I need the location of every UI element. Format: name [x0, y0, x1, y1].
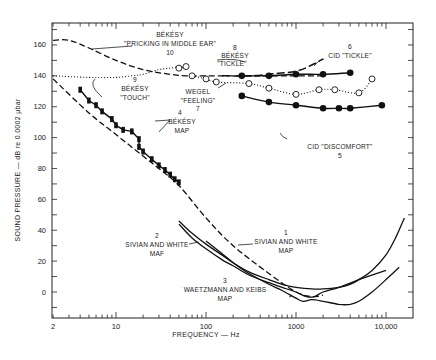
label-8-sub: "TICKLE"	[217, 60, 247, 67]
x-tick-label: 1000	[288, 322, 305, 331]
label-3-num: 3	[223, 277, 227, 284]
label-7-title: WEGEL	[186, 88, 211, 95]
marker-open	[203, 76, 209, 82]
hearing-threshold-chart: 210100100010,000 020406080100120140160 F…	[0, 0, 436, 360]
marker-filled	[239, 73, 246, 80]
x-axis-title: FREQUENCY — Hz	[172, 331, 240, 339]
label-7-sub: "FEELING"	[181, 97, 216, 104]
y-tick-label: 80	[38, 164, 46, 173]
curve-5	[242, 96, 382, 109]
label-5-num: 5	[338, 152, 342, 159]
marker-bar	[137, 144, 141, 150]
marker-bar	[110, 116, 114, 122]
marker-open	[293, 91, 299, 97]
label-7-num: 7	[196, 105, 200, 112]
marker-open	[183, 64, 189, 70]
curve-extrapolation	[53, 79, 323, 297]
marker-bar	[150, 156, 154, 162]
marker-open	[246, 81, 252, 87]
label-10-title: BÉKÉSY	[156, 30, 184, 38]
marker-open	[332, 87, 338, 93]
y-tick-label: 100	[33, 133, 46, 142]
marker-open	[316, 87, 322, 93]
marker-filled	[320, 71, 327, 78]
label-6-num: 6	[348, 43, 352, 50]
x-tick-label: 2	[51, 322, 55, 331]
marker-bar	[130, 128, 134, 134]
marker-bar	[100, 108, 104, 114]
marker-bar	[121, 127, 125, 133]
marker-filled	[347, 105, 354, 112]
label-4-title: BÉKÉSY	[168, 117, 196, 125]
marker-filled	[266, 99, 273, 106]
marker-filled	[336, 105, 343, 112]
marker-open	[356, 90, 362, 96]
marker-bar	[177, 179, 181, 185]
label-9-num: 9	[133, 76, 137, 83]
marker-bar	[137, 136, 141, 142]
label-2-title: SIVIAN AND WHITE	[125, 241, 189, 248]
label-9-sub: "TOUCH"	[120, 94, 150, 101]
marker-filled	[293, 71, 300, 78]
label-1-title: SIVIAN AND WHITE	[254, 238, 318, 245]
y-axis-title: SOUND PRESSURE — dB re 0.0002 μbar	[14, 98, 22, 241]
label-10-sub: "PRICKING IN MIDDLE EAR"	[124, 40, 216, 47]
label-2-sub: MAF	[150, 250, 165, 257]
marker-bar	[163, 167, 167, 173]
label-8-num: 8	[233, 44, 237, 51]
marker-bar	[78, 87, 82, 93]
y-tick-label: 20	[38, 257, 46, 266]
label-4-sub: MAP	[175, 127, 190, 134]
marker-bar	[173, 176, 177, 182]
marker-open	[213, 79, 219, 85]
label-4-num: 4	[178, 109, 182, 116]
marker-open	[266, 85, 272, 91]
marker-bar	[87, 98, 91, 104]
marker-filled	[293, 102, 300, 109]
curves	[53, 40, 404, 305]
label-6-title: CID "TICKLE"	[328, 52, 372, 59]
x-tick-label: 10	[112, 322, 120, 331]
y-tick-label: 40	[38, 226, 46, 235]
marker-filled	[320, 105, 327, 112]
label-2-num: 2	[155, 232, 159, 239]
marker-open	[176, 65, 182, 71]
label-3-title: WAETZMANN AND KEIBS	[184, 286, 267, 293]
y-tick-label: 60	[38, 195, 46, 204]
label-10-num: 10	[166, 49, 174, 56]
marker-bar	[94, 102, 98, 108]
marker-open	[189, 73, 195, 79]
marker-bar	[141, 148, 145, 154]
label-1-sub: MAP	[279, 247, 294, 254]
plot-frame	[52, 23, 413, 318]
curve-7	[192, 76, 372, 95]
label-3-sub: MAP	[218, 295, 233, 302]
marker-filled	[347, 69, 354, 76]
marker-filled	[239, 93, 246, 100]
leader-lines	[92, 46, 324, 297]
y-tick-label: 160	[33, 40, 46, 49]
markers	[78, 64, 385, 186]
marker-bar	[157, 162, 161, 168]
marker-filled	[266, 73, 273, 80]
x-tick-label: 100	[200, 322, 213, 331]
curve-9	[53, 67, 179, 78]
marker-bar	[168, 172, 172, 178]
x-tick-label: 10,000	[375, 322, 398, 331]
y-tick-label: 140	[33, 71, 46, 80]
y-axis-tick-labels: 020406080100120140160	[33, 40, 46, 296]
label-1-num: 1	[284, 229, 288, 236]
label-9-title: BÉKÉSY	[121, 84, 149, 92]
y-tick-label: 120	[33, 102, 46, 111]
marker-bar	[114, 122, 118, 128]
marker-filled	[379, 102, 386, 109]
y-tick-label: 0	[42, 288, 46, 297]
label-8-title: BÉKÉSY	[221, 51, 249, 59]
x-axis-tick-labels: 210100100010,000	[51, 322, 397, 331]
label-5-title: CID "DISCOMFORT"	[307, 143, 373, 150]
x-axis-ticks	[53, 23, 386, 318]
marker-open	[369, 76, 375, 82]
